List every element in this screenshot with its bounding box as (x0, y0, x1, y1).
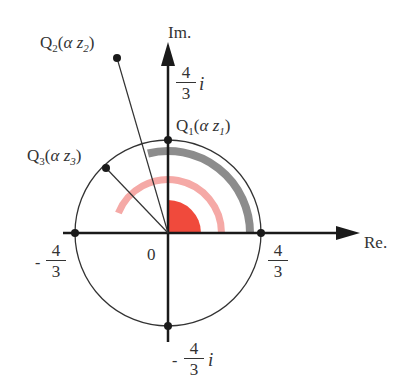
red-sector (168, 200, 201, 233)
point-q1 (164, 136, 172, 144)
tick-re-neg: 4 3 (46, 242, 66, 280)
point-im-neg (164, 322, 172, 330)
tick-im-neg-unit: i (208, 350, 213, 369)
tick-im-pos-unit: i (199, 74, 204, 93)
label-q2: Q2(α z2) (40, 34, 94, 54)
tick-im-neg: 4 3 (184, 340, 204, 378)
tick-re-pos: 4 3 (268, 242, 288, 280)
label-q3: Q3(α z3) (27, 147, 81, 167)
imag-axis-arrow-icon (161, 42, 175, 66)
point-q3 (102, 164, 110, 172)
real-axis-label: Re. (364, 234, 387, 251)
point-re-neg (71, 229, 79, 237)
complex-plane-diagram (0, 0, 410, 391)
tick-re-neg-sign: - (35, 254, 40, 272)
point-re-pos (257, 229, 265, 237)
tick-im-pos: 4 3 (176, 64, 196, 102)
tick-im-neg-sign: - (172, 352, 177, 370)
real-axis-arrow-icon (336, 226, 360, 240)
point-q2 (113, 54, 121, 62)
imag-axis-label: Im. (168, 24, 191, 41)
label-q1: Q1(α z1) (176, 117, 230, 137)
origin-label: 0 (147, 246, 156, 263)
